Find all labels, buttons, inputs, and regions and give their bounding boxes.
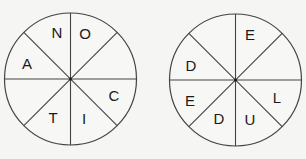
letter-wheel-left: NOCITA [5,13,137,145]
letter-wheel-right: ELUDED [170,14,302,146]
segment-letter-left-upper: D [186,57,197,74]
segment-letter-left-upper: A [22,55,32,72]
puzzle-canvas: NOCITA ELUDED [0,0,306,159]
segment-letter-top-right-upper: O [79,25,91,42]
segment-letter-right-lower: C [109,87,120,104]
segment-letter-top-left-upper: N [52,24,63,41]
segment-letter-left-lower: E [185,92,195,109]
segment-letter-top-right-upper: E [245,26,255,43]
segment-letter-right-lower: L [273,89,281,106]
wheel-center-dot [234,78,237,81]
segment-letter-bottom-right-lower: I [82,110,86,127]
segment-letter-bottom-right-lower: U [245,111,256,128]
wheel-center-dot [69,77,72,80]
segment-letter-bottom-left-lower: T [48,109,57,126]
segment-letter-bottom-left-lower: D [214,110,225,127]
